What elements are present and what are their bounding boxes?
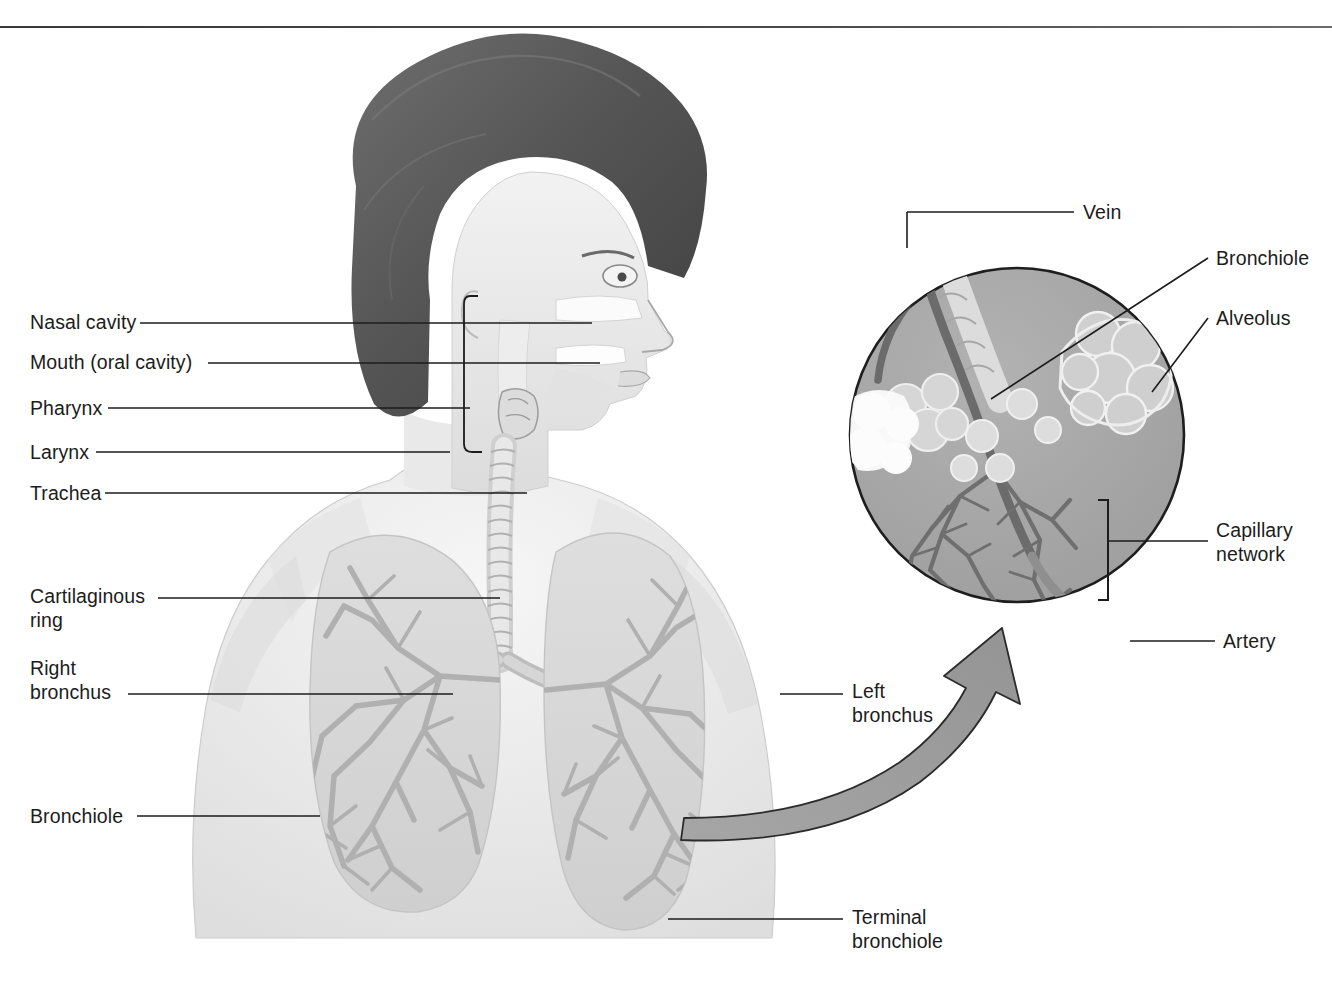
label-bronchiole-lung: Bronchiole	[30, 804, 123, 828]
left-lung	[544, 533, 705, 930]
larynx-shape	[498, 389, 538, 439]
label-cartilaginous-ring: Cartilaginous ring	[30, 584, 145, 632]
label-capillary-network: Capillary network	[1216, 518, 1293, 566]
label-artery: Artery	[1223, 629, 1276, 653]
label-vein: Vein	[1083, 200, 1121, 224]
figure-canvas: Nasal cavity Mouth (oral cavity) Pharynx…	[0, 0, 1332, 987]
label-left-bronchus: Left bronchus	[852, 679, 933, 727]
label-mouth-oral-cavity: Mouth (oral cavity)	[30, 350, 192, 374]
label-larynx: Larynx	[30, 440, 89, 464]
label-right-bronchus: Right bronchus	[30, 656, 111, 704]
anatomical-illustration	[0, 0, 1332, 987]
label-nasal-cavity: Nasal cavity	[30, 310, 136, 334]
label-trachea: Trachea	[30, 481, 102, 505]
label-alveolus: Alveolus	[1216, 306, 1291, 330]
label-terminal-bronchiole: Terminal bronchiole	[852, 905, 943, 953]
label-pharynx: Pharynx	[30, 396, 102, 420]
label-bronchiole-inset: Bronchiole	[1216, 246, 1309, 270]
alveolar-inset	[846, 205, 1184, 630]
nasal-cavity-shape	[556, 296, 642, 322]
